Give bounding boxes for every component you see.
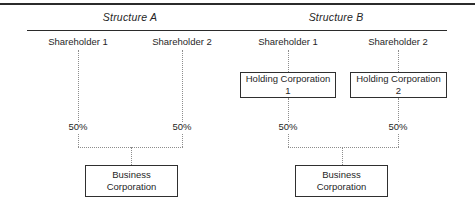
structure-b-holding-corporation-2-box: Holding Corporation 2 (350, 72, 447, 98)
figure-top-rule (0, 3, 475, 5)
structure-a-shareholder-2-label: Shareholder 2 (152, 36, 212, 47)
structure-b-connector-holding-2 (398, 98, 400, 122)
structure-b-business-corporation-line2: Corporation (317, 181, 367, 193)
structure-a-title: Structure A (103, 11, 157, 23)
structure-b-connector-percent-1-drop (288, 134, 290, 147)
structure-b-percent-2: 50% (388, 121, 407, 132)
structure-b-connector-percent-2-drop (398, 134, 400, 147)
structure-a-connector-percent-2-drop (182, 134, 184, 147)
structure-a-connector-shareholder-2 (182, 50, 184, 122)
structure-b-connector-shareholder-2 (398, 50, 400, 72)
structure-a-connector-to-business (131, 147, 133, 165)
structure-b-percent-1: 50% (278, 121, 297, 132)
structure-b-holding-corporation-1-line2: 1 (285, 85, 290, 97)
structure-a-shareholder-1-label: Shareholder 1 (48, 36, 108, 47)
structure-b-title: Structure B (309, 11, 364, 23)
figure-header-rule (27, 30, 447, 31)
structure-b-shareholder-1-label: Shareholder 1 (258, 36, 318, 47)
structure-b-connector-to-business (342, 147, 344, 165)
structure-b-connector-holding-1 (288, 98, 290, 122)
structure-a-business-corporation-box: Business Corporation (85, 165, 178, 197)
structure-a-business-corporation-line1: Business (112, 169, 151, 181)
structure-a-percent-1: 50% (68, 121, 87, 132)
corporate-structure-figure: Structure A Shareholder 1 Shareholder 2 … (0, 0, 475, 215)
structure-a-percent-2: 50% (172, 121, 191, 132)
structure-b-holding-corporation-2-line1: Holding Corporation (356, 73, 441, 85)
structure-a-connector-percent-1-drop (78, 134, 80, 147)
structure-b-business-corporation-box: Business Corporation (295, 165, 388, 197)
structure-b-holding-corporation-1-box: Holding Corporation 1 (240, 72, 336, 98)
structure-b-shareholder-2-label: Shareholder 2 (368, 36, 428, 47)
structure-b-connector-shareholder-1 (288, 50, 290, 72)
structure-b-business-corporation-line1: Business (322, 169, 361, 181)
structure-b-holding-corporation-2-line2: 2 (396, 85, 401, 97)
structure-b-holding-corporation-1-line1: Holding Corporation (246, 73, 331, 85)
structure-a-connector-shareholder-1 (78, 50, 80, 122)
structure-a-business-corporation-line2: Corporation (107, 181, 157, 193)
